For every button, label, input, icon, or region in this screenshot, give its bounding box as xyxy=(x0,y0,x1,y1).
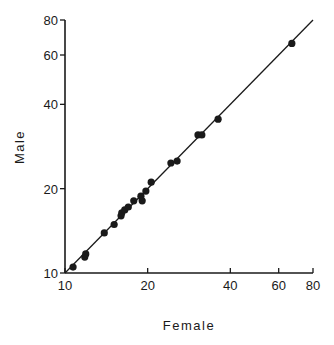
y-tick-label: 40 xyxy=(44,97,58,112)
data-point xyxy=(288,40,295,47)
y-tick-label: 60 xyxy=(44,48,58,63)
y-axis-title: Male xyxy=(12,130,27,164)
data-point xyxy=(198,131,205,138)
data-point xyxy=(139,197,146,204)
data-point xyxy=(111,221,118,228)
x-tick-label: 10 xyxy=(58,278,72,293)
y-tick-label: 20 xyxy=(44,182,58,197)
data-point xyxy=(82,250,89,257)
data-point xyxy=(125,203,132,210)
x-axis-ticks: 1020406080 xyxy=(58,268,320,293)
data-point xyxy=(148,179,155,186)
data-point xyxy=(69,263,76,270)
scatter-chart: 1020406080 1020406080 Female Male xyxy=(0,0,334,345)
y-axis-ticks: 1020406080 xyxy=(44,13,65,281)
x-tick-label: 60 xyxy=(271,278,285,293)
x-tick-label: 80 xyxy=(306,278,320,293)
data-points xyxy=(69,40,295,271)
x-axis-title: Female xyxy=(163,318,215,333)
data-point xyxy=(130,197,137,204)
y-tick-label: 10 xyxy=(44,266,58,281)
data-point xyxy=(142,188,149,195)
data-point xyxy=(167,159,174,166)
data-point xyxy=(214,116,221,123)
data-point xyxy=(174,157,181,164)
y-tick-label: 80 xyxy=(44,13,58,28)
data-point xyxy=(101,229,108,236)
x-tick-label: 40 xyxy=(223,278,237,293)
x-tick-label: 20 xyxy=(140,278,154,293)
